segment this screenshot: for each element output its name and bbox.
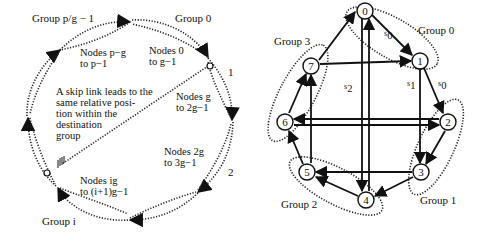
edge-5-6 [289,131,303,164]
nodes-g2-line1: Nodes 2g [164,146,205,157]
node-5: 5 [299,164,315,180]
nodes-g0-line1: Nodes 0 [149,45,184,56]
edge-3-4 [375,177,413,196]
group-3-label: Group 3 [274,35,311,47]
nodes-g2-line2: to 3g−1 [164,157,196,168]
svg-text:7: 7 [308,60,314,72]
svg-text:2: 2 [445,116,451,128]
right-graph-diagram: 0 1 2 3 4 5 6 7 Group 0 Group 1 Group 2 … [257,0,475,226]
svg-text:0: 0 [362,5,368,17]
edge-6-7 [289,74,306,113]
edge-4-5 [316,177,358,196]
node-3: 3 [413,164,429,180]
node-2: 2 [440,114,456,130]
skip-link-hatch [58,156,64,168]
link-g3-to-gi-outer [130,193,198,220]
nodes-g1-line2: to 2g−1 [176,102,208,113]
node-1: 1 [412,53,428,69]
figure-canvas: Group p/g − 1 Group 0 1 2 Group i Nodes … [0,0,485,236]
svg-text:3: 3 [418,166,424,178]
nodes-pg1-line2: to p−1 [80,58,107,69]
nodes-gi-line1: Nodes ig [80,175,118,186]
group-label-2: 2 [228,166,234,178]
edge-label-s1: s1 [407,79,415,91]
annotation-line3: tion within the [56,108,118,119]
svg-text:6: 6 [282,116,288,128]
group-label-1: 1 [228,66,234,78]
node-7: 7 [303,58,319,74]
group-label-pg1: Group p/g − 1 [32,12,94,24]
group-label-i: Group i [42,215,76,227]
link-left-upper-inner [30,54,58,114]
svg-text:1: 1 [417,55,423,67]
group-1-label: Group 1 [420,194,456,206]
nodes-g1-line1: Nodes g [176,91,211,102]
node-0: 0 [357,3,373,19]
link-g2-to-g3-inner [198,124,231,190]
edge-label-s0-top: s0 [384,29,392,41]
edge-7-0 [319,12,355,60]
skip-link-dest-node [44,170,50,176]
node-4: 4 [358,192,374,208]
link-g3-to-gi-inner [130,192,196,218]
edge-label-s0-right: s0 [438,79,446,91]
nodes-gi-line2: to (i+1)g−1 [80,186,128,198]
link-left-lower-outer [28,118,56,186]
annotation-line2: same relative posi- [56,97,136,108]
edge-label-s2: s2 [344,82,352,94]
annotation-line5: group [56,130,81,141]
svg-text:4: 4 [363,194,369,206]
group-label-0: Group 0 [175,12,212,24]
group-0-label: Group 0 [418,24,455,36]
edge-2-3 [426,131,445,164]
svg-text:5: 5 [304,166,310,178]
skip-link-source-node [207,63,213,69]
group-2-label: Group 2 [281,198,317,210]
node-6: 6 [277,114,293,130]
left-ring-diagram: Group p/g − 1 Group 0 1 2 Group i Nodes … [27,12,234,227]
nodes-pg1-line1: Nodes p−g [80,47,127,58]
link-pg1-to-g0-outer [60,22,130,50]
annotation-line1: A skip link leads to the [56,86,153,97]
nodes-g0-line2: to g−1 [149,56,176,67]
annotation-line4: destination [56,119,103,130]
